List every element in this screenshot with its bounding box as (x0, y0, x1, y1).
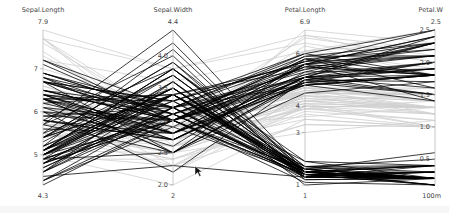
tick-label: 2.0 (420, 59, 430, 67)
tick-label: 4 (296, 102, 300, 110)
tick-label: 2.0 (158, 181, 168, 189)
axis-max-label: 6.9 (300, 18, 310, 26)
tick-label: 7 (34, 65, 38, 73)
axis-min-label: 100m (422, 192, 441, 200)
tick-label: 6 (296, 50, 300, 58)
highlighted-data-lines (43, 30, 435, 185)
axis-max-label: 2.5 (431, 18, 441, 26)
axis-max-label: 4.4 (168, 18, 178, 26)
parallel-coordinates-chart[interactable]: Sepal.Length7.94.3567Sepal.Width4.422.02… (0, 0, 449, 213)
tick-label: 4.0 (158, 52, 168, 60)
axis-min-label: 2 (171, 192, 175, 200)
tick-label: 3.5 (158, 84, 168, 92)
axis-min-label: 4.3 (38, 192, 48, 200)
axis-max-label: 7.9 (38, 18, 48, 26)
axis-petal-width[interactable]: Petal.W2.5100m0.51.01.52.02.5 (418, 6, 443, 200)
tick-label: 1.5 (420, 91, 430, 99)
tick-label: 3.0 (158, 117, 168, 125)
axis-title[interactable]: Petal.Length (285, 6, 326, 14)
tick-label: 1.0 (420, 123, 430, 131)
tick-label: 6 (34, 108, 38, 116)
axis-min-label: 1 (303, 192, 307, 200)
axis-title[interactable]: Sepal.Width (154, 6, 193, 14)
tick-label: 2.5 (158, 149, 168, 157)
tick-label: 0.5 (420, 155, 430, 163)
tick-label: 2.5 (420, 26, 430, 34)
tick-label: 1 (296, 181, 300, 189)
tick-label: 3 (296, 129, 300, 137)
axis-title[interactable]: Sepal.Length (22, 6, 65, 14)
tick-label: 5 (34, 151, 38, 159)
axis-title[interactable]: Petal.W (418, 6, 443, 14)
bottom-bar (0, 206, 449, 213)
